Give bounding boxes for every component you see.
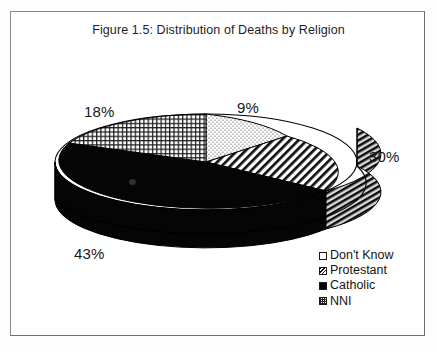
slice-label-catholic: 43% bbox=[74, 245, 105, 262]
legend-label-protestant: Protestant bbox=[330, 264, 387, 277]
legend-swatch-nni-icon bbox=[319, 297, 327, 305]
legend-item-protestant: Protestant bbox=[319, 263, 419, 278]
slice-label-protestant: 30% bbox=[369, 148, 400, 165]
legend-swatch-protestant-icon bbox=[319, 267, 327, 275]
chart-legend: Don't Know Protestant Catholic NNI bbox=[319, 248, 419, 309]
legend-swatch-dont-know-icon bbox=[319, 252, 327, 260]
legend-item-dont-know: Don't Know bbox=[319, 248, 419, 263]
legend-swatch-catholic-icon bbox=[319, 282, 327, 290]
slice-label-nni: 18% bbox=[84, 103, 115, 120]
scan-speckle bbox=[129, 179, 136, 185]
legend-label-dont-know: Don't Know bbox=[330, 249, 394, 262]
scanned-page: Figure 1.5: Distribution of Deaths by Re… bbox=[0, 0, 437, 352]
legend-item-nni: NNI bbox=[319, 294, 419, 309]
slice-label-dont-know: 9% bbox=[237, 99, 259, 116]
legend-item-catholic: Catholic bbox=[319, 278, 419, 293]
legend-label-catholic: Catholic bbox=[330, 279, 375, 292]
legend-label-nni: NNI bbox=[330, 295, 352, 308]
